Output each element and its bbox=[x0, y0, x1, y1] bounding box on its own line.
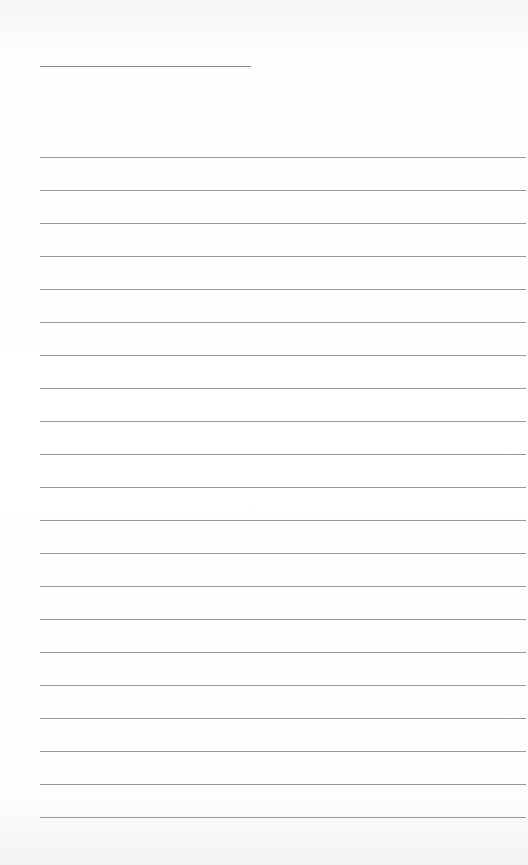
ruled-line bbox=[40, 256, 526, 257]
ruled-line bbox=[40, 619, 526, 620]
ruled-line bbox=[40, 520, 526, 521]
notebook-page bbox=[0, 0, 528, 865]
ruled-line bbox=[40, 652, 526, 653]
ruled-line bbox=[40, 157, 526, 158]
ruled-line bbox=[40, 421, 526, 422]
ruled-line bbox=[40, 553, 526, 554]
ruled-line bbox=[40, 586, 526, 587]
ruled-line bbox=[40, 454, 526, 455]
ruled-line bbox=[40, 751, 526, 752]
ruled-line bbox=[40, 190, 526, 191]
ruled-line bbox=[40, 223, 526, 224]
ruled-line bbox=[40, 718, 526, 719]
ruled-line bbox=[40, 355, 526, 356]
title-rule-line bbox=[40, 66, 251, 67]
ruled-line bbox=[40, 685, 526, 686]
ruled-line bbox=[40, 289, 526, 290]
ruled-line bbox=[40, 817, 526, 818]
ruled-line bbox=[40, 322, 526, 323]
ruled-line bbox=[40, 487, 526, 488]
ruled-line bbox=[40, 388, 526, 389]
ruled-line bbox=[40, 784, 526, 785]
